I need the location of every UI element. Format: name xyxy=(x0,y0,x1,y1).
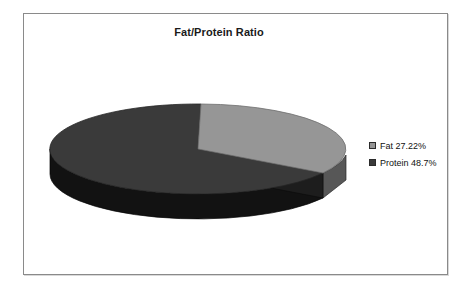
chart-legend: Fat 27.22% Protein 48.7% xyxy=(369,138,447,172)
legend-swatch-protein-icon xyxy=(369,159,376,166)
legend-swatch-fat-icon xyxy=(369,142,376,149)
legend-item-protein[interactable]: Protein 48.7% xyxy=(369,155,447,170)
chart-frame: Fat/Protein Ratio xyxy=(23,13,448,275)
chart-screenshot: Fat/Protein Ratio xyxy=(0,0,468,291)
legend-label-protein: Protein 48.7% xyxy=(380,158,437,168)
pie-chart-3d xyxy=(24,14,384,276)
legend-label-fat: Fat 27.22% xyxy=(380,141,426,151)
pie-plot-area xyxy=(24,14,384,276)
legend-item-fat[interactable]: Fat 27.22% xyxy=(369,138,447,153)
